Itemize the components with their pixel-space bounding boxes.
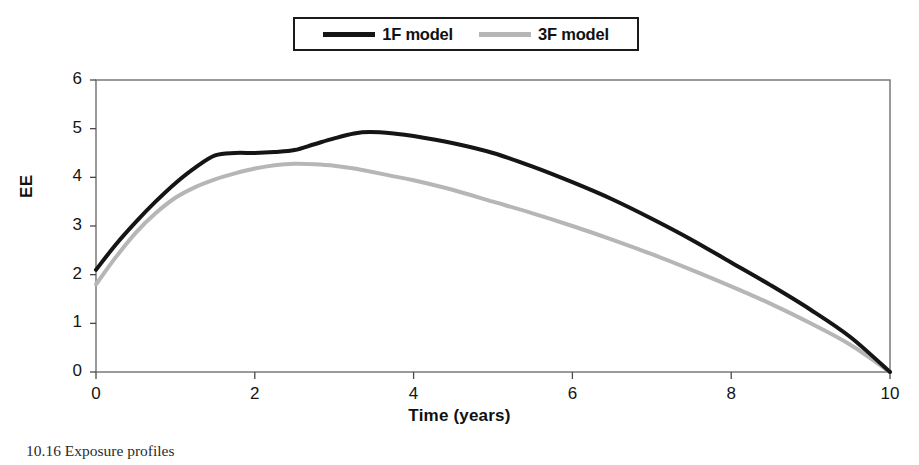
x-tick-label-4: 4 bbox=[394, 384, 434, 404]
plot-frame bbox=[96, 80, 890, 372]
figure-caption: 10.16 Exposure profiles bbox=[26, 441, 906, 460]
y-axis-ticks bbox=[90, 80, 96, 372]
x-tick-label-8: 8 bbox=[711, 384, 751, 404]
y-tick-label-0: 0 bbox=[48, 361, 82, 381]
x-tick-label-0: 0 bbox=[76, 384, 116, 404]
y-tick-label-3: 3 bbox=[48, 215, 82, 235]
y-tick-label-4: 4 bbox=[48, 166, 82, 186]
y-tick-label-5: 5 bbox=[48, 118, 82, 138]
figure-container: 1F model 3F model 0 1 2 3 4 5 6 0 2 4 6 bbox=[0, 0, 919, 465]
y-tick-label-2: 2 bbox=[48, 264, 82, 284]
y-tick-label-1: 1 bbox=[48, 312, 82, 332]
x-axis-title: Time (years) bbox=[0, 406, 919, 426]
series-line-3f-model bbox=[96, 164, 890, 372]
x-tick-label-10: 10 bbox=[870, 384, 910, 404]
chart-svg bbox=[0, 0, 919, 465]
x-axis-ticks bbox=[96, 372, 890, 379]
y-axis-title: EE bbox=[17, 174, 37, 198]
plot-area: 0 1 2 3 4 5 6 0 2 4 6 8 10 bbox=[0, 0, 919, 465]
x-tick-label-2: 2 bbox=[235, 384, 275, 404]
y-tick-label-6: 6 bbox=[48, 69, 82, 89]
series-line-1f-model bbox=[96, 132, 890, 372]
x-tick-label-6: 6 bbox=[552, 384, 592, 404]
